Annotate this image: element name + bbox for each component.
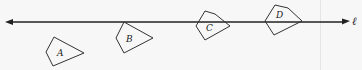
diagram-canvas: ℓ A B C D bbox=[0, 0, 362, 70]
shape-b-label: B bbox=[125, 34, 133, 44]
shape-a: A bbox=[46, 37, 84, 66]
shape-a-label: A bbox=[56, 48, 64, 58]
line-l: ℓ bbox=[5, 15, 357, 28]
line-label: ℓ bbox=[352, 15, 357, 28]
shape-d-label: D bbox=[275, 10, 283, 20]
left-arrowhead-icon bbox=[5, 19, 13, 25]
shape-d: D bbox=[265, 5, 302, 35]
shape-c-label: C bbox=[206, 23, 213, 33]
right-arrowhead-icon bbox=[342, 19, 350, 25]
shape-c: C bbox=[196, 11, 230, 40]
shape-b: B bbox=[116, 22, 153, 53]
